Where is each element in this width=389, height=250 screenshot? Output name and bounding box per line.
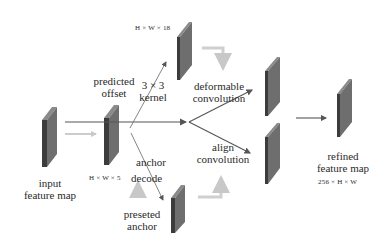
offset-to-deformable-elbow-arrow [202, 48, 223, 68]
align-line1: align [193, 141, 253, 153]
preseted-line2: anchor [117, 220, 167, 232]
input-line1: input [22, 177, 78, 189]
offset-map-slab [177, 22, 192, 80]
preseted-anchor-label: preseted anchor [117, 208, 167, 232]
refined-feature-map-label: refined feature map [313, 150, 373, 174]
anchor-decode-label: anchor [126, 156, 176, 168]
diagram-canvas: H × W × 18 predicted offset 3 × 3 kernel… [0, 0, 389, 250]
anchor-decode-line1: anchor [126, 156, 176, 168]
refined-line1: refined [313, 150, 373, 162]
refined-line2: feature map [313, 162, 373, 174]
predicted-offset-slab [104, 105, 119, 165]
input-feature-map-slab [42, 107, 57, 167]
anchor-to-align-elbow-arrow [198, 178, 221, 197]
offset-dims-label: H × W × 18 [135, 25, 170, 33]
diagram-graphics [0, 0, 389, 250]
anchor-decode-word: decode [131, 172, 162, 184]
predicted-offset-label: predicted offset [89, 75, 139, 99]
deformable-convolution-label: deformable convolution [189, 80, 249, 104]
kernel-line2: kernel [133, 91, 173, 103]
kernel-line1: 3 × 3 [133, 79, 173, 91]
refined-feature-map-slab [337, 79, 352, 137]
align-convolution-label: align convolution [193, 141, 253, 165]
input-line2: feature map [22, 189, 78, 201]
deformable-output-slab [265, 57, 280, 116]
preseted-line1: preseted [117, 208, 167, 220]
preseted-anchor-slab [171, 185, 185, 233]
align-line2: convolution [193, 153, 253, 165]
predicted-offset-line2: offset [89, 87, 139, 99]
predicted-offset-line1: predicted [89, 75, 139, 87]
deformable-line2: convolution [189, 92, 249, 104]
kernel-label: 3 × 3 kernel [133, 79, 173, 103]
refined-dims-label: 256 × H × W [318, 179, 357, 187]
anchor-dims-label: H × W × 5 [89, 175, 121, 183]
input-feature-map-label: input feature map [22, 177, 78, 201]
align-output-slab [265, 123, 280, 184]
deformable-line1: deformable [189, 80, 249, 92]
